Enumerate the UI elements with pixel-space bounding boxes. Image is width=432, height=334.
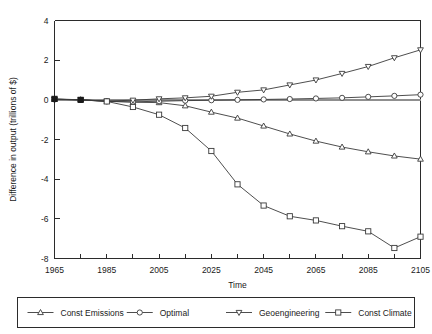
y-tick-label: 2 (44, 55, 49, 65)
data-point (78, 97, 83, 102)
data-point (209, 148, 214, 153)
data-point (183, 125, 188, 130)
circle-icon (137, 310, 142, 315)
data-point (261, 97, 266, 102)
data-point (366, 229, 371, 234)
axis-spines (55, 21, 421, 259)
data-point (339, 95, 344, 100)
data-point (339, 224, 344, 229)
data-point (235, 182, 240, 187)
series-line-const-climate (55, 99, 421, 248)
data-point (235, 97, 240, 102)
x-tick-label: 2105 (411, 265, 430, 275)
x-tick-label: 2085 (359, 265, 378, 275)
data-point (52, 96, 57, 101)
axis-frame (55, 21, 421, 259)
x-tick-label: 2065 (306, 265, 325, 275)
legend-label-2: Geoengineering (259, 308, 320, 318)
y-tick-label: -4 (41, 174, 49, 184)
y-tick-label: -6 (41, 214, 49, 224)
y-tick-label: -8 (41, 254, 49, 264)
data-point (156, 112, 161, 117)
data-point (130, 104, 135, 109)
x-tick-label: 2045 (254, 265, 273, 275)
data-point (287, 96, 292, 101)
data-point (313, 218, 318, 223)
y-axis-title: Difference in output (trillions of $) (8, 77, 18, 202)
legend-label-0: Const Emissions (61, 308, 124, 318)
line-chart: 420-2-4-6-819651985200520252045206520852… (0, 0, 432, 334)
data-point (287, 214, 292, 219)
data-point (366, 94, 371, 99)
x-tick-label: 1985 (97, 265, 116, 275)
x-tick-label: 1965 (45, 265, 64, 275)
legend-label-1: Optimal (160, 308, 189, 318)
x-tick-label: 2025 (202, 265, 221, 275)
x-tick-label: 2005 (150, 265, 169, 275)
data-point (104, 99, 109, 104)
data-point (392, 245, 397, 250)
y-tick-label: -2 (41, 135, 49, 145)
square-icon (336, 310, 341, 315)
x-axis-title: Time (228, 280, 247, 290)
data-point (392, 93, 397, 98)
chart-figure: 420-2-4-6-819651985200520252045206520852… (0, 0, 432, 334)
y-tick-label: 4 (44, 16, 49, 26)
data-point (418, 92, 423, 97)
y-tick-label: 0 (44, 95, 49, 105)
data-point (313, 96, 318, 101)
data-point (261, 203, 266, 208)
legend-label-3: Const Climate (358, 308, 412, 318)
series-line-const-emissions (55, 99, 421, 159)
data-point (418, 234, 423, 239)
